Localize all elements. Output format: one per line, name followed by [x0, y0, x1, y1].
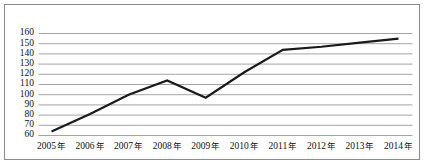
- y-tick-label: 140: [12, 49, 34, 59]
- chart-screenshot: 60708090100110120130140150160 2005年2006年…: [0, 0, 425, 165]
- y-tick-label: 80: [12, 110, 34, 120]
- y-tick-label: 160: [12, 28, 34, 38]
- y-tick-label: 150: [12, 39, 34, 49]
- y-tick-label: 70: [12, 120, 34, 130]
- line-chart-figure: 60708090100110120130140150160 2005年2006年…: [0, 0, 425, 165]
- x-tick-label: 2006年: [76, 141, 105, 151]
- x-tick-label: 2009年: [191, 141, 220, 151]
- x-tick-label: 2010年: [230, 141, 259, 151]
- y-tick-label: 120: [12, 69, 34, 79]
- y-tick-label: 100: [12, 90, 34, 100]
- x-tick-label: 2013年: [345, 141, 374, 151]
- x-tick-label: 2005年: [37, 141, 66, 151]
- y-tick-label: 90: [12, 100, 34, 110]
- x-tick-label: 2011年: [269, 141, 298, 151]
- x-tick-label: 2008年: [153, 141, 182, 151]
- y-tick-label: 110: [12, 79, 34, 89]
- x-tick-label: 2007年: [114, 141, 143, 151]
- y-tick-label: 130: [12, 59, 34, 69]
- y-tick-label: 60: [12, 130, 34, 140]
- data-series-line-0: [52, 39, 399, 132]
- x-tick-label: 2014年: [384, 141, 413, 151]
- x-tick-label: 2012年: [307, 141, 336, 151]
